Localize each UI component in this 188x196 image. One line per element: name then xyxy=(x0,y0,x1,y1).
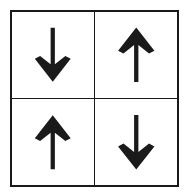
grid-cell-bottom-left[interactable] xyxy=(12,99,95,186)
arrow-grid xyxy=(10,10,179,187)
arrow-down-icon xyxy=(95,99,178,186)
grid-cell-top-left[interactable] xyxy=(12,12,95,99)
grid-cell-top-right[interactable] xyxy=(95,12,178,99)
grid-cell-bottom-right[interactable] xyxy=(95,99,178,186)
arrow-up-icon xyxy=(12,99,94,186)
arrow-up-icon xyxy=(95,12,178,98)
arrow-left-icon xyxy=(12,12,94,98)
